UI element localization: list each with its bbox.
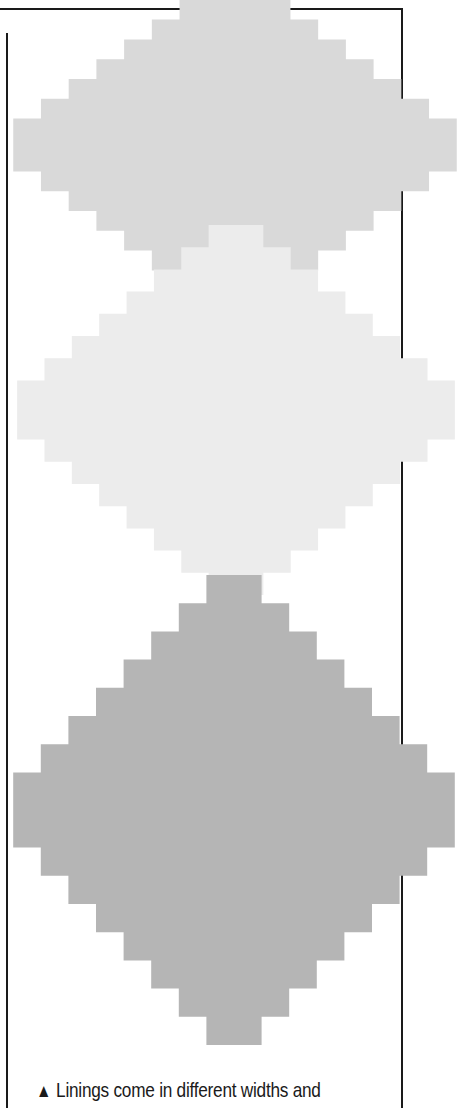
triangle-marker-icon: ▲ — [36, 1080, 51, 1101]
swatch-fabric — [8, 225, 464, 595]
lining-swatch-3 — [4, 575, 464, 1045]
caption-text: Linings come in different widths and — [56, 1078, 321, 1101]
lining-swatch-2 — [8, 225, 464, 595]
figure-caption: ▲Linings come in different widths and — [36, 1078, 321, 1102]
swatch-fabric — [4, 575, 464, 1045]
